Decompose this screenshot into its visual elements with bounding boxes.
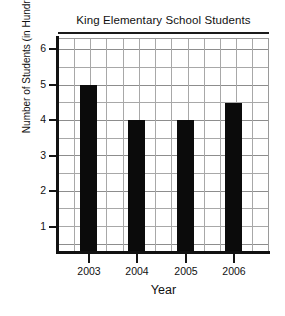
xtick-label-2006: 2006 [214, 265, 254, 277]
gridline-v-6 [155, 38, 156, 252]
xtick-label-2005: 2005 [166, 265, 206, 277]
y-axis-label: Number of Students (in Hundreds) [21, 0, 32, 157]
bar-2003 [80, 85, 97, 252]
gridline-v-12 [252, 38, 253, 252]
gridline-v-7 [171, 38, 172, 252]
ytick-label-1: 1 [32, 221, 46, 232]
plot-frame-right [268, 38, 269, 252]
bar-chart-figure: King Elementary School Students 6 5 4 3 … [0, 0, 285, 316]
chart-title: King Elementary School Students [58, 14, 269, 26]
gridline-v-10 [220, 38, 221, 252]
xtick-mark-2004 [136, 254, 138, 263]
y-axis-spine [56, 36, 59, 254]
gridline-v-1 [74, 38, 75, 252]
xtick-label-2003: 2003 [69, 265, 109, 277]
y-axis-label-wrapper: Number of Students (in Hundreds) [21, 0, 35, 157]
xtick-label-2004: 2004 [117, 265, 157, 277]
bar-2004 [128, 120, 145, 252]
gridline-v-4 [123, 38, 124, 252]
gridline-v-9 [204, 38, 205, 252]
gridline-v-3 [106, 38, 107, 252]
bar-2005 [177, 120, 194, 252]
xtick-mark-2005 [185, 254, 187, 263]
bar-2006 [225, 103, 242, 252]
xtick-mark-2003 [88, 254, 90, 263]
xtick-mark-2006 [233, 254, 235, 263]
ytick-label-2: 2 [32, 185, 46, 196]
plot-frame-top [58, 38, 269, 39]
x-axis-spine [56, 251, 270, 254]
x-axis-label: Year [58, 283, 269, 297]
title-underline-rule [58, 32, 269, 34]
